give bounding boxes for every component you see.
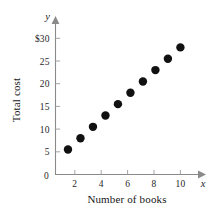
- y-tick-label: 5: [45, 147, 50, 157]
- y-tick-label: $30: [35, 34, 50, 44]
- y-axis-arrow-head: [52, 16, 60, 24]
- scatter-plot-figure: 0 2 4 6 8 10 5 10 15 20 25 $30 y x: [0, 0, 222, 210]
- y-axis-title: Total cost: [10, 78, 22, 122]
- data-point: [64, 145, 72, 153]
- plot-canvas: 0 2 4 6 8 10 5 10 15 20 25 $30 y x: [0, 0, 222, 210]
- data-point: [151, 66, 159, 74]
- y-tick-label: 20: [40, 79, 50, 89]
- x-axis-title: Number of books: [87, 193, 166, 205]
- x-tick-label: 2: [72, 179, 77, 189]
- data-point: [89, 123, 97, 131]
- x-tick-label: 6: [125, 179, 130, 189]
- axes-group: [52, 16, 206, 178]
- data-point: [114, 100, 122, 108]
- data-points-group: [64, 43, 185, 154]
- data-point: [176, 43, 184, 51]
- x-tick-label: 10: [176, 179, 186, 189]
- data-point: [139, 77, 147, 85]
- data-point: [164, 55, 172, 63]
- x-tick-label: 0: [44, 171, 49, 181]
- y-axis-ticks: [56, 38, 61, 152]
- data-point: [76, 134, 84, 142]
- y-tick-label: 10: [40, 125, 50, 135]
- y-tick-labels: 5 10 15 20 25 $30: [35, 34, 50, 158]
- data-point: [126, 89, 134, 97]
- x-tick-labels: 0 2 4 6 8 10: [44, 171, 185, 189]
- data-point: [101, 111, 109, 119]
- x-tick-label: 8: [152, 179, 157, 189]
- x-axis-variable-label: x: [200, 178, 206, 189]
- x-tick-label: 4: [99, 179, 104, 189]
- y-axis-variable-label: y: [44, 11, 50, 22]
- y-tick-label: 15: [40, 102, 50, 112]
- y-tick-label: 25: [40, 57, 50, 67]
- x-axis-ticks: [75, 170, 181, 175]
